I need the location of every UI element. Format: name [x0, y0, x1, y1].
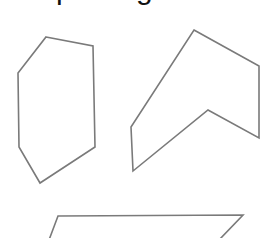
chevron-hexagon-shape — [131, 30, 259, 171]
parallelogram-shape — [49, 215, 243, 238]
shapes-canvas — [0, 0, 271, 238]
hexagon-shape — [18, 37, 95, 183]
